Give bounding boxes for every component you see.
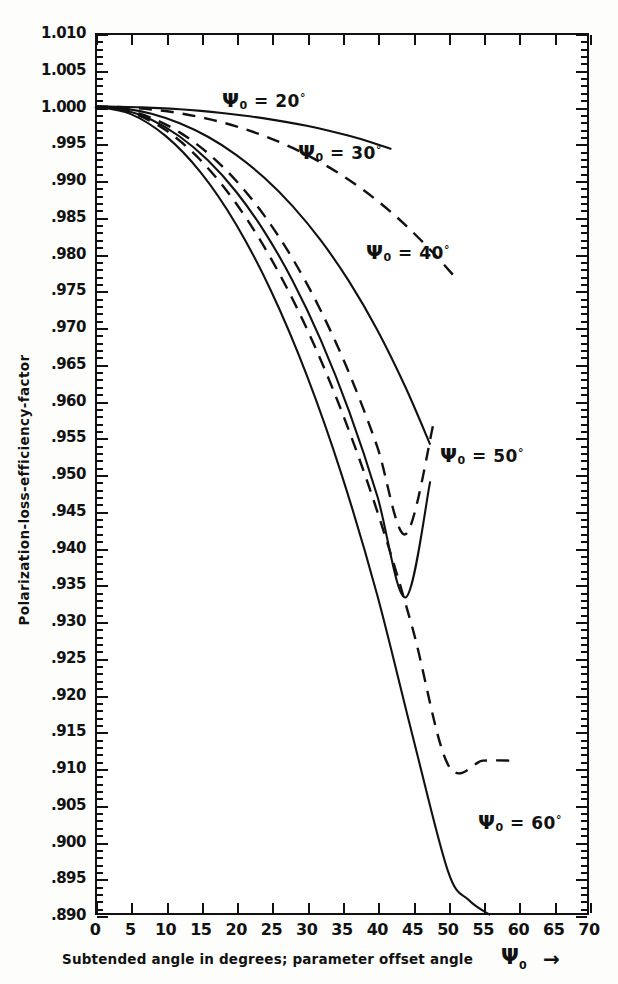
x-axis-major-tick [202, 903, 204, 913]
y-axis-major-tick [97, 475, 108, 477]
y-axis-right-tick [581, 240, 587, 242]
y-axis-minor-tick [97, 321, 103, 323]
y-axis-tick-label: .975 [8, 281, 86, 299]
y-axis-major-tick [97, 181, 108, 183]
y-axis-minor-tick [97, 343, 103, 345]
series-label-50: Ψ0 = 50° [440, 443, 524, 467]
x-axis-title: Subtended angle in degrees; parameter of… [62, 945, 582, 972]
y-axis-tick-label: .910 [8, 759, 86, 777]
y-axis-tick-label: .915 [8, 722, 86, 740]
y-axis-minor-tick [97, 284, 103, 286]
y-axis-right-tick [581, 225, 587, 227]
y-axis-minor-tick [97, 820, 103, 822]
y-axis-tick-label: .945 [8, 502, 86, 520]
y-axis-right-tick [581, 335, 587, 337]
y-axis-minor-tick [97, 56, 103, 58]
x-axis-top-tick [308, 35, 310, 45]
y-axis-minor-tick [97, 387, 103, 389]
y-axis-right-tick [576, 34, 587, 36]
y-axis-right-tick [576, 71, 587, 73]
y-axis-major-tick [97, 916, 108, 918]
y-axis-minor-tick [97, 225, 103, 227]
y-axis-minor-tick [97, 100, 103, 102]
x-axis-major-tick [449, 903, 451, 913]
y-axis-right-tick [581, 894, 587, 896]
x-axis-major-tick [308, 903, 310, 913]
y-axis-minor-tick [97, 379, 103, 381]
y-axis-minor-tick [97, 607, 103, 609]
x-axis-title-text: Subtended angle in degrees; parameter of… [62, 951, 473, 967]
y-axis-minor-tick [97, 240, 103, 242]
x-axis-major-tick [343, 903, 345, 913]
y-axis-minor-tick [97, 174, 103, 176]
y-axis-minor-tick [97, 424, 103, 426]
y-axis-right-tick [581, 350, 587, 352]
y-axis-minor-tick [97, 563, 103, 565]
y-axis-right-tick [576, 659, 587, 661]
y-axis-minor-tick [97, 85, 103, 87]
y-axis-right-tick [581, 519, 587, 521]
y-axis-major-tick [97, 291, 108, 293]
y-axis-major-tick [97, 732, 108, 734]
y-axis-minor-tick [97, 519, 103, 521]
y-axis-right-tick [581, 754, 587, 756]
y-axis-minor-tick [97, 299, 103, 301]
y-axis-minor-tick [97, 152, 103, 154]
y-axis-tick-label: .905 [8, 796, 86, 814]
x-axis-top-tick [378, 35, 380, 45]
y-axis-minor-tick [97, 593, 103, 595]
psi-symbol-icon: Ψ0 [501, 945, 527, 972]
y-axis-tick-label: .900 [8, 833, 86, 851]
y-axis-right-tick [581, 681, 587, 683]
y-axis-major-tick [97, 659, 108, 661]
y-axis-minor-tick [97, 762, 103, 764]
y-axis-right-tick [581, 526, 587, 528]
y-axis-right-tick [581, 490, 587, 492]
y-axis-minor-tick [97, 504, 103, 506]
y-axis-right-tick [581, 813, 587, 815]
y-axis-right-tick [581, 600, 587, 602]
x-axis-top-tick [519, 35, 521, 45]
y-axis-right-tick [581, 137, 587, 139]
y-axis-minor-tick [97, 409, 103, 411]
y-axis-tick-label: 1.010 [8, 24, 86, 42]
y-axis-minor-tick [97, 196, 103, 198]
y-axis-minor-tick [97, 446, 103, 448]
x-axis-tick-label: 20 [216, 920, 256, 939]
x-axis-tick-label: 55 [463, 920, 503, 939]
y-axis-major-tick [97, 879, 108, 881]
y-axis-minor-tick [97, 137, 103, 139]
y-axis-right-tick [581, 409, 587, 411]
x-axis-tick-label: 35 [322, 920, 362, 939]
y-axis-minor-tick [97, 857, 103, 859]
y-axis-tick-label: .940 [8, 539, 86, 557]
y-axis-minor-tick [97, 78, 103, 80]
y-axis-minor-tick [97, 703, 103, 705]
y-axis-minor-tick [97, 372, 103, 374]
y-axis-right-tick [576, 585, 587, 587]
x-axis-tick-label: 60 [498, 920, 538, 939]
x-axis-major-tick [555, 903, 557, 913]
y-axis-minor-tick [97, 681, 103, 683]
y-axis-major-tick [97, 108, 108, 110]
y-axis-minor-tick [97, 63, 103, 65]
y-axis-minor-tick [97, 556, 103, 558]
y-axis-right-tick [581, 798, 587, 800]
y-axis-right-tick [581, 196, 587, 198]
y-axis-right-tick [576, 328, 587, 330]
y-axis-right-tick [576, 512, 587, 514]
y-axis-right-tick [581, 100, 587, 102]
y-axis-right-tick [581, 166, 587, 168]
y-axis-minor-tick [97, 416, 103, 418]
y-axis-minor-tick [97, 431, 103, 433]
y-axis-tick-label: .960 [8, 392, 86, 410]
x-axis-major-tick [414, 903, 416, 913]
x-axis-major-tick [131, 903, 133, 913]
y-axis-right-tick [581, 718, 587, 720]
y-axis-right-tick [581, 637, 587, 639]
y-axis-right-tick [581, 247, 587, 249]
y-axis-right-tick [581, 85, 587, 87]
y-axis-right-tick [581, 710, 587, 712]
y-axis-minor-tick [97, 460, 103, 462]
y-axis-right-tick [576, 696, 587, 698]
